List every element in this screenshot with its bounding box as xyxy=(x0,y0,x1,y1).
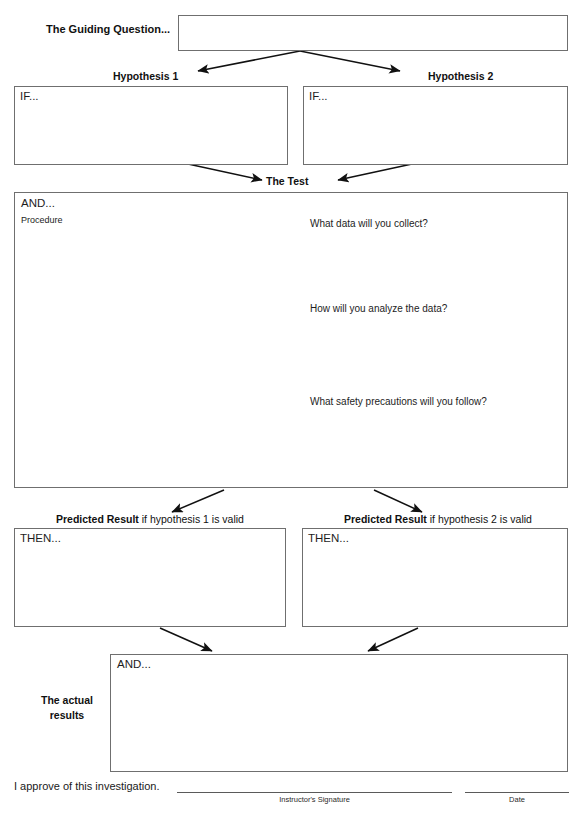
predicted-result-1-heading-bold: Predicted Result xyxy=(56,513,139,525)
hypothesis-2-heading: Hypothesis 2 xyxy=(428,71,493,83)
predicted-result-2-heading-rest: if hypothesis 2 is valid xyxy=(427,513,532,525)
arrow-hypothesis-1-to-test xyxy=(188,164,262,180)
arrow-predicted-1-to-actual xyxy=(160,628,212,651)
test-field-tag: AND... xyxy=(21,197,55,209)
predicted-result-1-field-tag: THEN... xyxy=(20,532,61,544)
predicted-result-2-heading-bold: Predicted Result xyxy=(344,513,427,525)
hypothesis-1-heading: Hypothesis 1 xyxy=(113,71,178,83)
predicted-result-1-input[interactable]: THEN... xyxy=(14,528,286,627)
guiding-question-input[interactable] xyxy=(178,15,568,51)
hypothesis-1-field-tag: IF... xyxy=(20,90,39,102)
predicted-result-2-heading: Predicted Result if hypothesis 2 is vali… xyxy=(344,514,532,526)
test-prompt-safety: What safety precautions will you follow? xyxy=(310,396,487,407)
arrow-question-to-hypothesis-2 xyxy=(300,51,400,71)
actual-results-field-tag: AND... xyxy=(117,658,151,670)
arrow-test-to-predicted-2 xyxy=(374,490,422,512)
instructor-signature-caption: Instructor's Signature xyxy=(177,795,452,804)
arrow-test-to-predicted-1 xyxy=(172,490,224,512)
instructor-signature-line[interactable] xyxy=(177,792,452,793)
arrow-predicted-2-to-actual xyxy=(368,628,418,651)
arrow-hypothesis-2-to-test xyxy=(338,164,412,180)
arrow-question-to-hypothesis-1 xyxy=(198,51,300,71)
predicted-result-1-heading: Predicted Result if hypothesis 1 is vali… xyxy=(56,514,244,526)
date-line[interactable] xyxy=(465,792,569,793)
predicted-result-2-field-tag: THEN... xyxy=(308,532,349,544)
worksheet-page: The Guiding Question... Hypothesis 1 IF.… xyxy=(0,0,587,816)
hypothesis-1-input[interactable]: IF... xyxy=(14,86,288,165)
predicted-result-2-input[interactable]: THEN... xyxy=(302,528,568,627)
test-prompt-data-analysis: How will you analyze the data? xyxy=(310,303,447,314)
actual-results-input[interactable]: AND... xyxy=(110,654,568,772)
test-heading: The Test xyxy=(266,176,308,188)
date-caption: Date xyxy=(465,795,569,804)
test-prompt-data-collection: What data will you collect? xyxy=(310,218,428,229)
guiding-question-label: The Guiding Question... xyxy=(46,23,170,35)
actual-results-label-line-2: results xyxy=(32,710,102,722)
hypothesis-2-input[interactable]: IF... xyxy=(303,86,568,165)
actual-results-label-line-1: The actual xyxy=(32,695,102,707)
test-input[interactable]: AND... Procedure What data will you coll… xyxy=(14,192,568,488)
test-sub-tag: Procedure xyxy=(21,215,63,225)
predicted-result-1-heading-rest: if hypothesis 1 is valid xyxy=(139,513,244,525)
approval-text: I approve of this investigation. xyxy=(14,780,160,792)
hypothesis-2-field-tag: IF... xyxy=(309,90,328,102)
